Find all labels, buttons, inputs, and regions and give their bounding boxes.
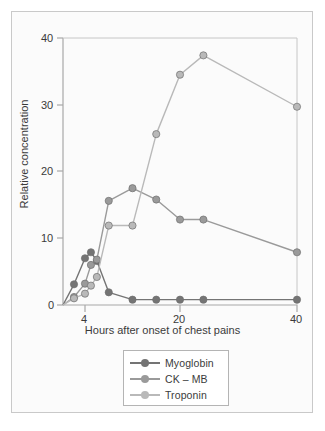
- x-axis-label: Hours after onset of chest pains: [0, 324, 325, 336]
- data-point: [81, 255, 88, 262]
- series-ck-mb: [63, 185, 301, 305]
- data-point: [129, 296, 136, 303]
- legend: Myoglobin CK – MB Troponin: [123, 350, 229, 406]
- data-point: [70, 281, 77, 288]
- data-point: [200, 296, 207, 303]
- legend-marker-troponin: [130, 389, 160, 401]
- data-point: [153, 196, 160, 203]
- legend-item-ck-mb[interactable]: CK – MB: [130, 371, 228, 387]
- legend-item-troponin[interactable]: Troponin: [130, 387, 228, 403]
- y-tick-label-10: 10: [41, 232, 53, 244]
- series-troponin: [63, 52, 301, 305]
- legend-item-myoglobin[interactable]: Myoglobin: [130, 355, 228, 371]
- data-point: [176, 71, 183, 78]
- legend-marker-ck-mb: [130, 373, 160, 385]
- data-point: [81, 290, 88, 297]
- data-point: [105, 197, 112, 204]
- data-point: [176, 296, 183, 303]
- y-tick-label-30: 30: [41, 99, 53, 111]
- data-point: [293, 249, 300, 256]
- data-point: [200, 52, 207, 59]
- x-axis-ticks: [85, 305, 297, 312]
- data-point: [293, 296, 300, 303]
- y-tick-label-0: 0: [48, 299, 54, 311]
- data-point: [293, 103, 300, 110]
- data-point: [87, 282, 94, 289]
- data-point: [153, 296, 160, 303]
- legend-label-ck-mb: CK – MB: [165, 373, 208, 385]
- data-point: [93, 273, 100, 280]
- data-point: [70, 295, 77, 302]
- y-axis-label: Relative concentration: [18, 94, 30, 214]
- data-point: [93, 256, 100, 263]
- y-tick-label-40: 40: [41, 32, 53, 44]
- figure-container: 40 30 20 10 0 4 20 40 Relative concentra…: [0, 0, 325, 431]
- y-tick-label-20: 20: [41, 165, 53, 177]
- data-point: [105, 222, 112, 229]
- series-line: [63, 55, 297, 305]
- data-point: [105, 289, 112, 296]
- series-line: [63, 188, 297, 305]
- data-point: [87, 249, 94, 256]
- legend-marker-myoglobin: [130, 357, 160, 369]
- data-point: [200, 216, 207, 223]
- data-point: [129, 222, 136, 229]
- y-axis-ticks: [57, 38, 63, 305]
- data-series-layer: [63, 52, 301, 305]
- legend-label-troponin: Troponin: [165, 389, 207, 401]
- data-point: [153, 131, 160, 138]
- data-point: [176, 216, 183, 223]
- legend-label-myoglobin: Myoglobin: [165, 357, 214, 369]
- data-point: [87, 261, 94, 268]
- data-point: [129, 185, 136, 192]
